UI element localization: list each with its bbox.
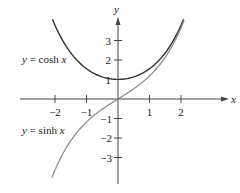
y-tick-label: 3 <box>106 35 112 47</box>
y-axis-label: y <box>113 3 119 15</box>
y-tick-label: −1 <box>100 113 112 125</box>
cosh-label: y = cosh x <box>21 53 67 65</box>
x-tick-label: 1 <box>147 106 153 118</box>
y-axis-arrow-icon <box>116 17 121 25</box>
y-tick-label: −3 <box>100 152 112 164</box>
x-tick-labels: −2 −1 1 2 <box>49 106 184 118</box>
y-tick-label: 2 <box>106 54 112 66</box>
axes <box>20 17 229 184</box>
x-axis-arrow-icon <box>221 97 229 102</box>
x-tick-label: −1 <box>81 106 93 118</box>
sinh-label: y = sinh x <box>21 124 65 136</box>
chart-canvas: −2 −1 1 2 3 2 1 −1 −2 −3 x y y = cosh x … <box>0 0 240 193</box>
x-axis-label: x <box>230 93 236 105</box>
x-tick-label: 2 <box>178 106 184 118</box>
y-tick-label: −2 <box>100 132 112 144</box>
x-tick-label: −2 <box>49 106 61 118</box>
y-tick-label: 1 <box>106 74 112 86</box>
